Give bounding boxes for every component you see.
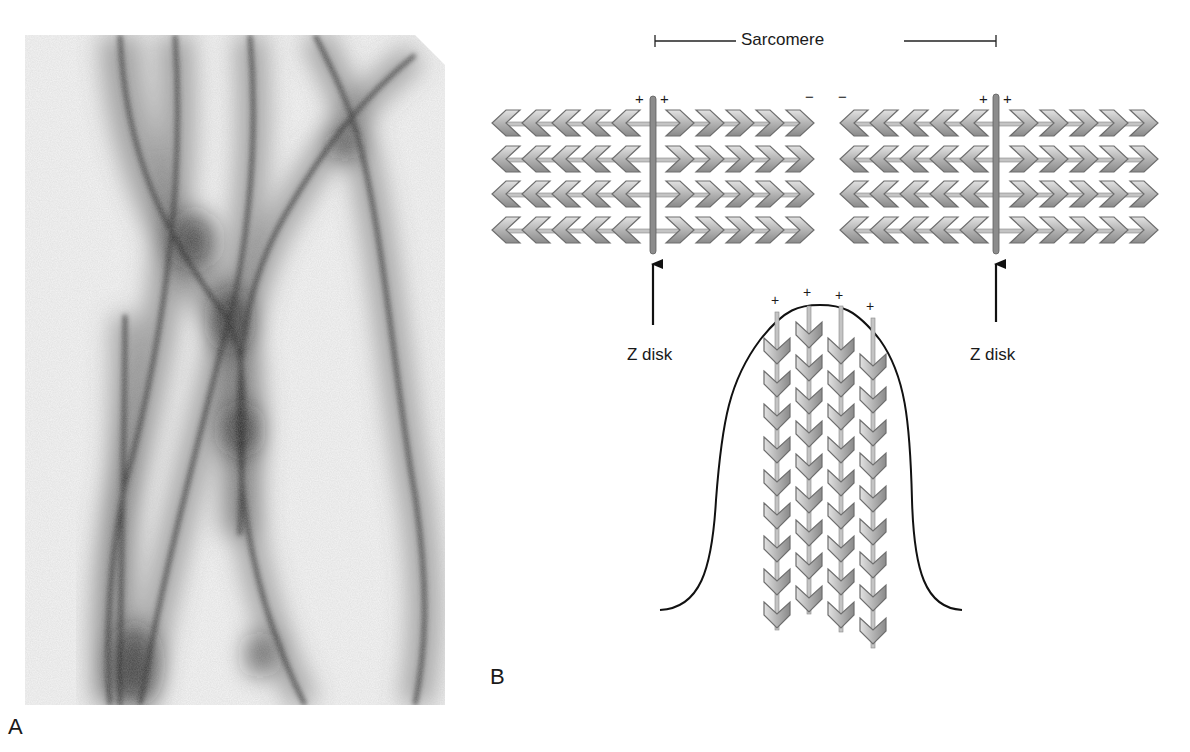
microvillus-plus-mark: + <box>866 298 874 314</box>
microvillus-plus-mark: + <box>771 292 779 308</box>
sarcomere-label: Sarcomere <box>741 30 824 50</box>
polarity-minus-mark: − <box>805 88 814 105</box>
sarcomere-filament-block-right <box>840 94 1158 254</box>
z-disk-right <box>993 94 999 254</box>
microvillus-filament <box>764 312 790 630</box>
polarity-plus-mark: + <box>979 90 988 107</box>
z-disk-label-right: Z disk <box>970 345 1015 365</box>
polarity-minus-mark: − <box>838 88 847 105</box>
actin-organization-diagram <box>0 0 1190 752</box>
polarity-plus-mark: + <box>635 90 644 107</box>
z-disk-label-left: Z disk <box>627 345 672 365</box>
z-disk-left <box>650 96 656 254</box>
microvillus-plus-mark: + <box>835 287 843 303</box>
polarity-plus-mark: + <box>1003 90 1012 107</box>
sarcomere-filament-block-left <box>492 96 814 254</box>
polarity-plus-mark: + <box>660 90 669 107</box>
microvillus-filament <box>796 306 822 614</box>
microvillus-filament <box>828 306 854 632</box>
microvillus-plus-mark: + <box>803 284 811 300</box>
microvillus-filament <box>860 318 886 648</box>
sarcomere-bracket <box>655 35 996 47</box>
